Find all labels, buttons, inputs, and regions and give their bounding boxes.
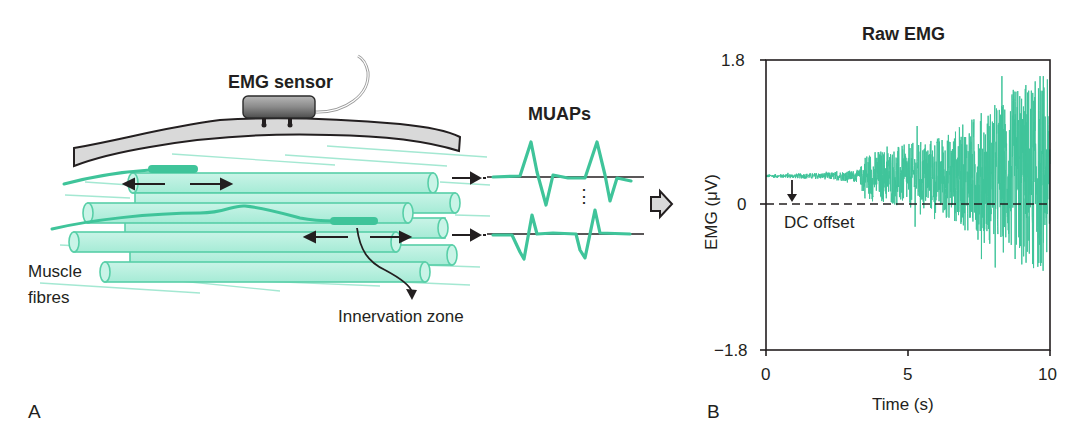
figure-canvas [0, 0, 1080, 435]
skin-layer [74, 118, 460, 166]
muscle-fibres-label-line1: Muscle [28, 263, 82, 280]
x-tick-10: 10 [1038, 366, 1057, 383]
emg-signal-trace [766, 76, 1050, 271]
muap-trace-1 [493, 142, 631, 205]
transform-arrow-icon [651, 191, 672, 217]
raw-emg-chart [760, 60, 1050, 356]
y-tick-zero: 0 [737, 196, 746, 213]
muap-waveforms [493, 142, 631, 259]
y-tick-bottom: −1.8 [714, 342, 748, 359]
panel-a-letter: A [28, 402, 41, 421]
muaps-label: MUAPs [528, 105, 591, 123]
muscle-fibre [69, 232, 401, 252]
x-tick-0: 0 [761, 366, 770, 383]
muap-ellipsis: ⋮ [575, 187, 593, 205]
emg-sensor [243, 96, 315, 118]
dc-offset-label: DC offset [784, 214, 855, 231]
y-tick-top: 1.8 [721, 52, 745, 69]
muscle-fibres-label-line2: fibres [28, 289, 70, 306]
x-tick-5: 5 [903, 366, 912, 383]
muap-baselines [487, 177, 644, 234]
emg-sensor-label: EMG sensor [228, 73, 333, 91]
x-axis-label: Time (s) [872, 396, 934, 413]
muscle-fibre [133, 173, 438, 193]
emg-signal-path [766, 76, 1050, 271]
chart-title: Raw EMG [862, 25, 945, 43]
muscle-fibres [69, 173, 460, 282]
innervation-zone-label: Innervation zone [338, 308, 464, 325]
muscle-fibre [100, 262, 430, 282]
y-axis-label: EMG (μV) [703, 174, 720, 250]
panel-a-illustration [40, 56, 672, 300]
panel-b-letter: B [707, 402, 720, 421]
